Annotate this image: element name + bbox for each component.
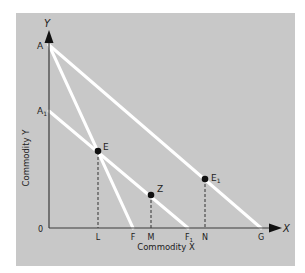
point-E1 <box>202 176 209 183</box>
point-Z <box>148 192 155 199</box>
tick-G: G <box>258 233 264 242</box>
x-axis-title: Commodity X <box>137 242 195 252</box>
tick-F: F <box>131 233 136 242</box>
tick-N: N <box>202 233 208 242</box>
x-arrow-label: X <box>282 223 291 234</box>
tick-M: M <box>148 233 155 242</box>
label-Z: Z <box>157 184 163 194</box>
y-arrow-label: Y <box>44 18 51 29</box>
label-E: E <box>103 142 109 152</box>
y-axis-title: Commodity Y <box>21 129 31 187</box>
tick-L: L <box>96 233 101 242</box>
label-A: A <box>37 41 44 51</box>
point-E <box>95 148 102 155</box>
origin-label: 0 <box>38 225 43 234</box>
budget-line-diagram: Y X 0 A A1 E Z E1 L F M F1 N G Commodity… <box>0 0 305 273</box>
